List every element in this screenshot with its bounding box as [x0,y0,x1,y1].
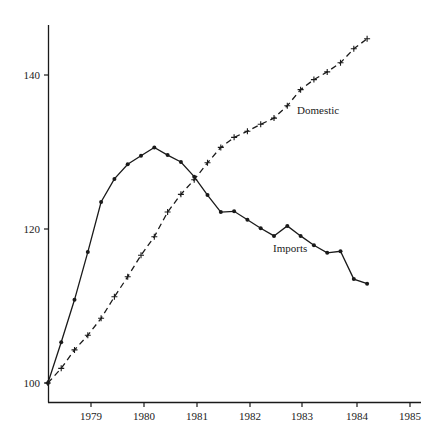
x-tick-label-1983: 1983 [291,410,314,422]
y-tick-labels: 140 120 100 [24,69,41,389]
imports-point-marker [192,175,196,179]
x-tick-label-1985: 1985 [399,410,422,422]
axes [48,25,421,403]
line-chart: 140 120 100 1979 1980 1981 1982 1983 198… [0,0,442,446]
domestic-label: Domestic [297,104,339,116]
domestic-plus-marker [151,234,157,240]
imports-point-marker [299,234,303,238]
imports-line [48,147,367,383]
imports-point-marker [325,251,329,255]
x-tick-label-1982: 1982 [239,410,261,422]
domestic-plus-marker [324,69,330,75]
x-tick-label-1980: 1980 [133,410,156,422]
imports-point-marker [365,282,369,286]
domestic-plus-marker [258,121,264,127]
imports-point-marker [46,381,50,385]
imports-point-marker [166,153,170,157]
imports-point-marker [99,200,103,204]
imports-point-marker [259,226,263,230]
imports-point-marker [126,162,130,166]
y-tick-label-120: 120 [24,223,41,235]
imports-point-marker [179,160,183,164]
x-tick-label-1979: 1979 [80,410,103,422]
x-tick-labels: 1979 1980 1981 1982 1983 1984 1985 [80,410,422,422]
imports-point-marker [312,243,316,247]
x-tick-label-1981: 1981 [186,410,208,422]
imports-point-marker [219,210,223,214]
imports-point-marker [232,209,236,213]
y-ticks [44,75,48,383]
imports-point-marker [245,218,249,222]
domestic-plus-marker [231,134,237,140]
domestic-plus-marker [311,77,317,83]
domestic-line [48,39,367,383]
imports-point-marker [152,145,156,149]
imports-point-marker [139,154,143,158]
y-tick-label-140: 140 [24,69,41,81]
domestic-plus-marker [271,115,277,121]
series-imports [46,145,369,385]
imports-point-marker [206,193,210,197]
imports-point-marker [352,277,356,281]
imports-label: Imports [273,242,307,254]
x-tick-label-1984: 1984 [346,410,369,422]
imports-point-marker [59,340,63,344]
imports-point-marker [272,234,276,238]
imports-point-marker [339,249,343,253]
series-domestic [45,36,370,386]
imports-point-marker [86,250,90,254]
imports-point-marker [73,298,77,302]
imports-point-marker [112,177,116,181]
domestic-plus-marker [244,128,250,134]
y-tick-label-100: 100 [24,377,41,389]
imports-point-marker [285,224,289,228]
